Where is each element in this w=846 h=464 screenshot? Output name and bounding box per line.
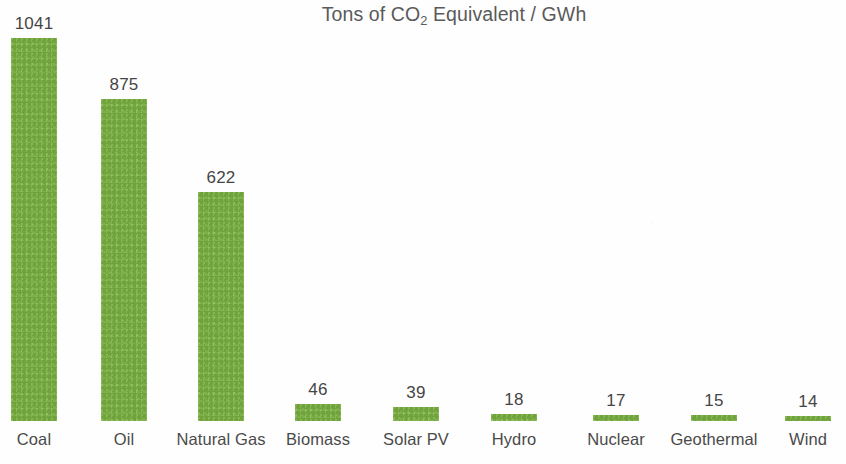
plot-area: 1041875622463918171514	[0, 0, 846, 421]
bar-value-label: 1041	[15, 14, 54, 34]
bar	[295, 404, 341, 421]
bar-value-label: 875	[110, 75, 139, 95]
x-axis-label-solar-pv: Solar PV	[383, 430, 449, 449]
x-axis-category-labels: CoalOilNatural GasBiomassSolar PVHydroNu…	[0, 421, 846, 464]
bar-group: 15	[691, 385, 737, 421]
bar-group: 39	[393, 377, 439, 421]
x-axis-label-natural-gas: Natural Gas	[176, 430, 265, 449]
bar-value-label: 46	[308, 380, 327, 400]
bar-value-label: 39	[406, 383, 425, 403]
bar-value-label: 18	[504, 390, 523, 410]
bar-group: 875	[101, 69, 147, 421]
bar-group: 46	[295, 374, 341, 421]
x-axis-label-hydro: Hydro	[492, 430, 537, 449]
bar-group: 17	[593, 385, 639, 421]
bar-group: 1041	[11, 8, 57, 421]
x-axis-label-geothermal: Geothermal	[670, 430, 757, 449]
bar	[101, 99, 147, 421]
bar	[198, 192, 244, 421]
bar	[491, 414, 537, 421]
bar-value-label: 622	[207, 168, 236, 188]
bar-group: 622	[198, 162, 244, 421]
bar-value-label: 17	[606, 391, 625, 411]
bar	[11, 38, 57, 421]
bar-group: 18	[491, 384, 537, 421]
x-axis-label-coal: Coal	[17, 430, 51, 449]
x-axis-label-wind: Wind	[789, 430, 827, 449]
bar	[393, 407, 439, 421]
co2-emissions-bar-chart: Tons of CO2 Equivalent / GWh 10418756224…	[0, 0, 846, 464]
x-axis-label-nuclear: Nuclear	[587, 430, 645, 449]
bar-value-label: 15	[704, 391, 723, 411]
bar-value-label: 14	[798, 392, 817, 412]
x-axis-label-oil: Oil	[114, 430, 134, 449]
x-axis-label-biomass: Biomass	[286, 430, 350, 449]
bar-group: 14	[785, 386, 831, 421]
